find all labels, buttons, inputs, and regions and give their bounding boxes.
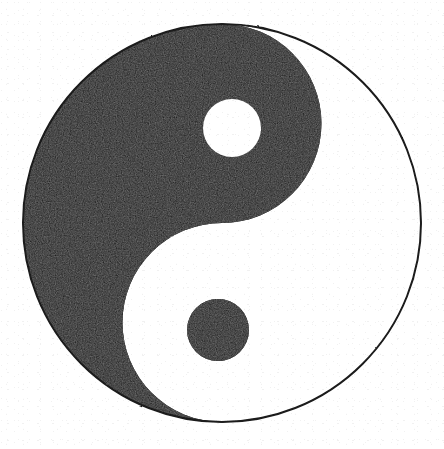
image-canvas: Yin and Yang Symbol: [0, 0, 444, 449]
yang-dot: [203, 99, 261, 157]
yin-dot-grain: [187, 299, 249, 361]
disk-group: [23, 24, 421, 422]
yin-yang-symbol: Yin and Yang Symbol: [0, 0, 444, 449]
